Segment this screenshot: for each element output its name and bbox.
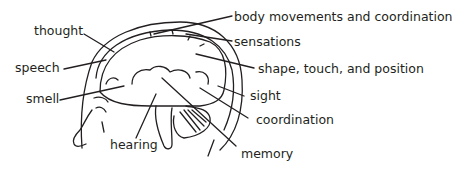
label-coordination: coordination: [256, 114, 334, 127]
label-speech: speech: [15, 62, 60, 75]
brain-diagram: thought speech smell hearing body moveme…: [0, 0, 462, 171]
leader-smell: [60, 86, 124, 100]
label-thought: thought: [34, 25, 83, 38]
label-smell: smell: [26, 93, 59, 106]
leader-body-movements: [154, 16, 232, 34]
label-sensations: sensations: [234, 36, 301, 49]
leader-thought: [84, 34, 114, 52]
label-memory: memory: [241, 148, 293, 161]
leader-hearing: [136, 94, 156, 138]
label-body-movements: body movements and coordination: [234, 11, 453, 24]
label-shape: shape, touch, and position: [258, 63, 424, 76]
label-sight: sight: [250, 90, 281, 103]
label-hearing: hearing: [110, 139, 158, 152]
